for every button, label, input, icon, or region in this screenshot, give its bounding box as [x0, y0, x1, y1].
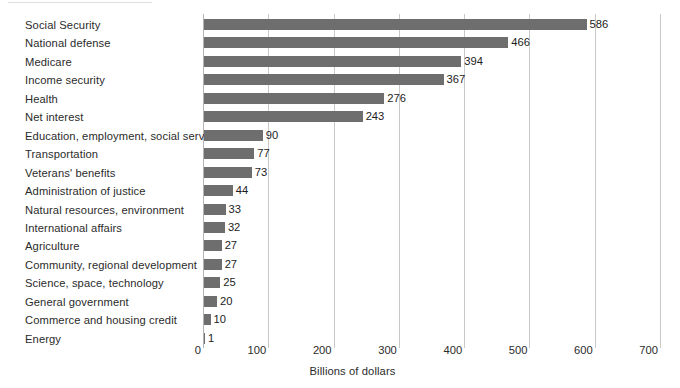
bar-row: International affairs32 [0, 219, 680, 237]
bar-row: Administration of justice44 [0, 182, 680, 200]
bar [204, 130, 263, 141]
bar-row: Commerce and housing credit10 [0, 311, 680, 329]
bar-value-label: 25 [223, 274, 235, 292]
bar-row: General government20 [0, 293, 680, 311]
bar [204, 277, 220, 288]
bar-chart-figure: Social Security586National defense466Med… [0, 0, 680, 388]
category-label: Community, regional development [25, 256, 197, 274]
x-tick-label-600: 600 [574, 344, 595, 356]
bar-row: Science, space, technology25 [0, 274, 680, 292]
category-label: Veterans' benefits [25, 164, 115, 182]
bar-row: Veterans' benefits73 [0, 164, 680, 182]
bar [204, 222, 225, 233]
bar-row: National defense466 [0, 34, 680, 52]
category-label: National defense [25, 34, 111, 52]
bar [204, 56, 461, 67]
bar-value-label: 90 [266, 127, 278, 145]
x-axis-title-text: Billions of dollars [310, 365, 396, 377]
bar [204, 296, 217, 307]
bar-row: Natural resources, environment33 [0, 201, 680, 219]
bar-value-label: 27 [225, 237, 237, 255]
bar [204, 19, 587, 30]
bar-value-label: 1 [208, 330, 214, 348]
category-label: Education, employment, social services [25, 127, 225, 145]
bar [204, 111, 363, 122]
bar-value-label: 466 [511, 34, 530, 52]
bar-row: Net interest243 [0, 108, 680, 126]
bar-row: Education, employment, social services90 [0, 127, 680, 145]
bar-value-label: 27 [225, 256, 237, 274]
bar-value-label: 44 [236, 182, 248, 200]
category-label: General government [25, 293, 129, 311]
category-label: Commerce and housing credit [25, 311, 177, 329]
category-label: Administration of justice [25, 182, 146, 200]
bar [204, 240, 222, 251]
bar-row: Agriculture27 [0, 237, 680, 255]
plot-area: Social Security586National defense466Med… [0, 0, 680, 388]
category-label: Net interest [25, 108, 83, 126]
x-tick-label-100: 100 [248, 344, 269, 356]
bar-value-label: 276 [387, 90, 406, 108]
bar-value-label: 73 [255, 164, 267, 182]
bar-row: Health276 [0, 90, 680, 108]
category-label: Natural resources, environment [25, 201, 184, 219]
bar [204, 93, 384, 104]
category-label: Medicare [25, 53, 72, 71]
bar [204, 74, 444, 85]
category-label: Income security [25, 71, 105, 89]
category-label: Energy [25, 330, 61, 348]
bar [204, 185, 233, 196]
x-tick-label-500: 500 [509, 344, 530, 356]
x-tick-label-300: 300 [378, 344, 399, 356]
category-label: Transportation [25, 145, 98, 163]
bar [204, 37, 508, 48]
category-label: Health [25, 90, 58, 108]
bar-value-label: 394 [464, 53, 483, 71]
category-label: Science, space, technology [25, 274, 164, 292]
category-label: Social Security [25, 16, 101, 34]
bar [204, 204, 226, 215]
bar-row: Transportation77 [0, 145, 680, 163]
bar [204, 259, 222, 270]
bar-row: Social Security586 [0, 16, 680, 34]
bar-value-label: 367 [447, 71, 466, 89]
bar [204, 333, 205, 344]
x-tick-label-200: 200 [313, 344, 334, 356]
bar [204, 148, 254, 159]
bar-value-label: 33 [229, 201, 241, 219]
bar [204, 314, 211, 325]
bar-value-label: 10 [214, 311, 226, 329]
category-label: Agriculture [25, 237, 80, 255]
bar-row: Community, regional development27 [0, 256, 680, 274]
category-label: International affairs [25, 219, 122, 237]
bar [204, 167, 252, 178]
x-tick-label-0: 0 [195, 344, 203, 356]
bar-value-label: 20 [220, 293, 232, 311]
bar-value-label: 243 [366, 108, 385, 126]
bar-value-label: 586 [590, 16, 609, 34]
x-tick-label-700: 700 [639, 344, 660, 356]
x-axis-title: Billions of dollars [0, 365, 680, 377]
x-tick-label-400: 400 [443, 344, 464, 356]
bar-value-label: 32 [228, 219, 240, 237]
bar-value-label: 77 [257, 145, 269, 163]
bar-row: Medicare394 [0, 53, 680, 71]
bar-row: Income security367 [0, 71, 680, 89]
